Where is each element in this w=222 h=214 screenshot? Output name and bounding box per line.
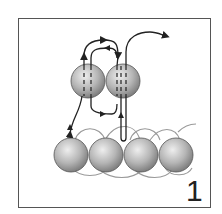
bead — [159, 138, 193, 172]
bead — [124, 138, 158, 172]
bead — [106, 64, 140, 98]
bead — [89, 138, 123, 172]
bead — [71, 64, 105, 98]
top-bead-pair — [71, 64, 140, 98]
bead — [54, 138, 88, 172]
bottom-bead-row — [54, 138, 193, 172]
step-number: 1 — [186, 176, 203, 206]
